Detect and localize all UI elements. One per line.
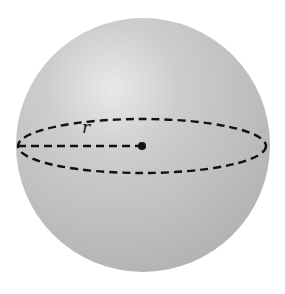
center-point [138,142,146,150]
sphere-diagram: r [0,0,285,294]
radius-label: r [82,117,91,137]
